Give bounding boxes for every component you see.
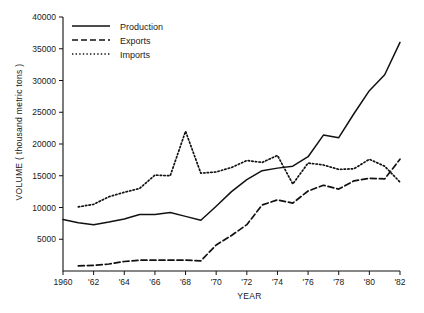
x-tick-label: '80 [364,277,375,287]
legend-label-production: Production [120,22,163,32]
legend-label-imports: Imports [120,50,151,60]
series-line-production [63,42,400,224]
legend-label-exports: Exports [120,36,151,46]
y-tick-label: 35000 [32,44,56,54]
y-axis-tick-labels: 500010000150002000025000300003500040000 [32,12,56,244]
axis-lines [63,17,400,271]
x-tick-label: '62 [88,277,99,287]
y-tick-label: 5000 [37,234,56,244]
data-series-group [63,42,400,266]
x-tick-label: '74 [272,277,283,287]
y-tick-label: 10000 [32,203,56,213]
x-tick-label: '72 [241,277,252,287]
series-line-exports [78,159,400,266]
x-tick-label: 1960 [54,277,73,287]
x-axis-title: YEAR [237,291,261,301]
y-tick-label: 20000 [32,139,56,149]
x-tick-label: '78 [333,277,344,287]
y-axis-title: VOLUME ( thousand metric tons ) [14,64,24,201]
tick-marks-group [59,17,400,275]
y-tick-label: 30000 [32,76,56,86]
axes-group [63,17,400,271]
x-tick-label: '76 [303,277,314,287]
x-axis-tick-labels: 1960'62'64'66'68'70'72'74'76'78'80'82 [54,277,406,287]
x-tick-label: '64 [119,277,130,287]
line-chart: 500010000150002000025000300003500040000 … [0,0,424,313]
x-tick-label: '70 [211,277,222,287]
chart-legend: ProductionExportsImports [72,22,163,60]
y-tick-label: 25000 [32,107,56,117]
x-tick-label: '68 [180,277,191,287]
chart-canvas: 500010000150002000025000300003500040000 … [0,0,424,313]
y-tick-label: 40000 [32,12,56,22]
x-tick-label: '82 [394,277,405,287]
x-tick-label: '66 [149,277,160,287]
series-line-imports [78,131,400,207]
y-tick-label: 15000 [32,171,56,181]
